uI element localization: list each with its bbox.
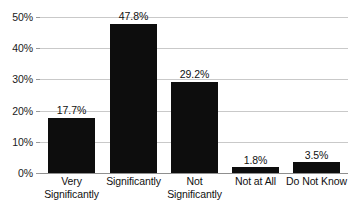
category-label-line-2: Significantly xyxy=(34,188,109,201)
bar-chart: 50% 40% 30% 20% 10% 0% 17.7% 47.8% 29.2% xyxy=(0,0,356,217)
ytick-label-30: 30% xyxy=(12,73,33,85)
category-axis: Very Significantly Significantly Not Sig… xyxy=(40,175,348,217)
ytick-label-20: 20% xyxy=(12,105,33,117)
bar-very-significantly[interactable] xyxy=(48,118,95,173)
category-label-line-1: Do Not Know xyxy=(279,175,354,188)
bar-value-not-significantly: 29.2% xyxy=(164,68,225,80)
ytick-label-10: 10% xyxy=(12,136,33,148)
bar-not-at-all[interactable] xyxy=(232,167,279,173)
bar-significantly[interactable] xyxy=(110,24,157,173)
ytick-label-50: 50% xyxy=(12,11,33,23)
bar-series: 17.7% 47.8% 29.2% 1.8% 3.5% xyxy=(40,17,348,173)
category-label-line-2: Significantly xyxy=(157,188,232,201)
bar-value-significantly: 47.8% xyxy=(103,10,164,22)
category-label-do-not-know: Do Not Know xyxy=(279,175,354,188)
bar-value-do-not-know: 3.5% xyxy=(286,149,347,161)
bar-do-not-know[interactable] xyxy=(293,162,340,173)
ytick-label-40: 40% xyxy=(12,42,33,54)
bar-value-not-at-all: 1.8% xyxy=(225,154,286,166)
bar-not-significantly[interactable] xyxy=(171,82,218,173)
bar-value-very-significantly: 17.7% xyxy=(41,104,102,116)
ytick-label-0: 0% xyxy=(18,167,33,179)
gridline-0-baseline: 0% xyxy=(40,173,348,174)
ytick-mark-0 xyxy=(36,173,40,174)
